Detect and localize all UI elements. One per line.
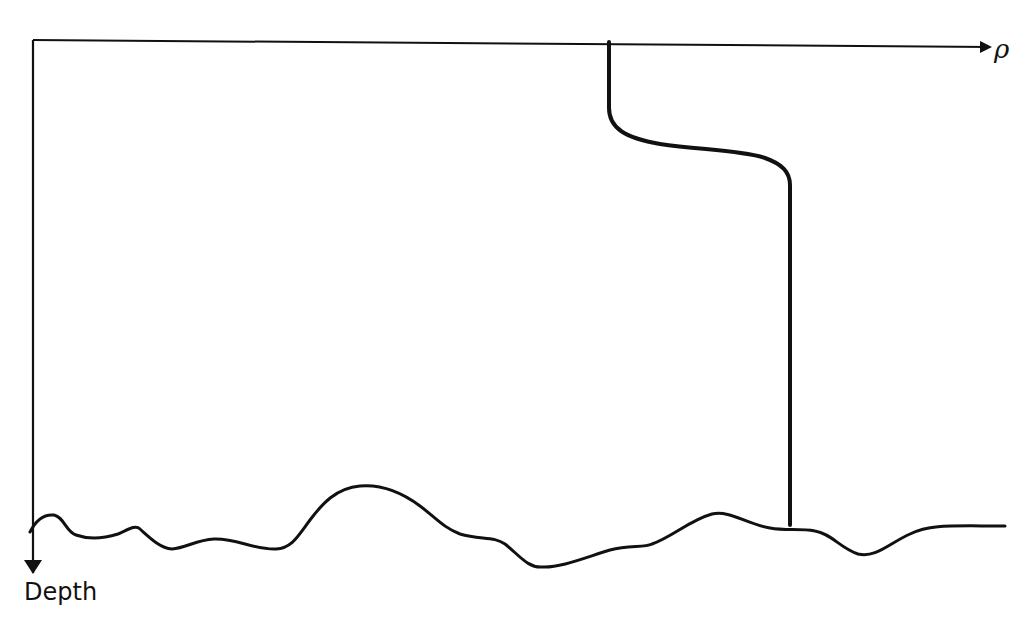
depth-axis-label: Depth [24, 578, 97, 606]
seafloor-line [30, 486, 1005, 567]
depth-axis-arrowhead-icon [24, 560, 42, 574]
density-depth-diagram [0, 0, 1032, 632]
density-axis [33, 40, 990, 47]
density-profile-curve [609, 42, 790, 525]
density-axis-label: ρ [994, 34, 1009, 64]
